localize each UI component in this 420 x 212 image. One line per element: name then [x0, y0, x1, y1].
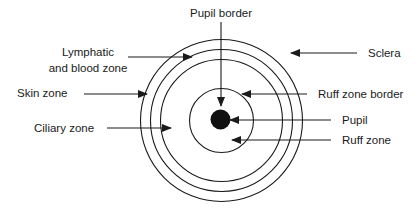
label-ciliary-zone: Ciliary zone: [34, 121, 94, 135]
label-pupil: Pupil: [342, 113, 368, 127]
label-ruff-zone-border: Ruff zone border: [318, 87, 403, 101]
label-sclera: Sclera: [368, 46, 401, 60]
label-skin-zone: Skin zone: [17, 86, 68, 100]
label-lymphatic-line1: Lymphatic: [62, 45, 114, 59]
label-ruff-zone: Ruff zone: [342, 133, 391, 147]
label-lymphatic-line2: and blood zone: [49, 61, 128, 75]
label-pupil-border: Pupil border: [190, 6, 252, 20]
iris-zones-diagram: [0, 0, 420, 212]
pupil-dot: [211, 110, 231, 130]
